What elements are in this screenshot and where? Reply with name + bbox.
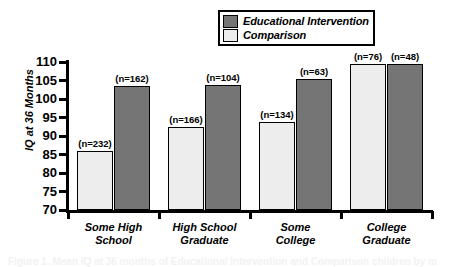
y-axis-tick <box>59 172 67 175</box>
legend-swatch-dark <box>223 15 238 28</box>
bar-educational-intervention-3 <box>296 79 332 210</box>
y-axis-tick-label: 70 <box>1 203 57 216</box>
y-axis-tick-label: 100 <box>1 92 57 105</box>
x-axis-tick <box>340 211 343 219</box>
bar-comparison-1 <box>77 151 113 210</box>
bar-sample-size-label: (n=63) <box>290 67 338 77</box>
plot-area <box>68 62 432 210</box>
y-axis-tick <box>59 153 67 156</box>
y-axis-tick-labels: 110105100959085807570 <box>0 0 57 264</box>
y-axis-tick-label: 90 <box>1 129 57 142</box>
y-axis-tick-label: 95 <box>1 111 57 124</box>
bar-comparison-3 <box>259 122 295 210</box>
x-axis-category-label: Some High School <box>68 221 159 246</box>
x-axis-tick <box>158 211 161 219</box>
legend-label: Educational Intervention <box>243 16 369 27</box>
bar-educational-intervention-1 <box>114 86 150 210</box>
bar-educational-intervention-2 <box>205 85 241 210</box>
x-axis-category-label: College Graduate <box>341 221 432 246</box>
y-axis-tick <box>59 135 67 138</box>
bar-educational-intervention-4 <box>387 64 423 210</box>
bar-comparison-2 <box>168 127 204 210</box>
y-axis-tick-label: 80 <box>1 166 57 179</box>
y-axis-tick <box>59 209 67 212</box>
bar-sample-size-label: (n=48) <box>381 52 429 62</box>
y-axis-tick <box>59 61 67 64</box>
x-axis-category-label: Some College <box>250 221 341 246</box>
y-axis-tick <box>59 79 67 82</box>
bar-sample-size-label: (n=232) <box>71 139 119 149</box>
figure-caption: Figure 1. Mean IQ at 36 months of Educat… <box>8 256 444 267</box>
y-axis-tick-label: 85 <box>1 148 57 161</box>
chart-legend: Educational InterventionComparison <box>218 10 375 46</box>
y-axis-tick <box>59 190 67 193</box>
bar-comparison-4 <box>350 64 386 210</box>
bar-sample-size-label: (n=166) <box>162 115 210 125</box>
x-axis-tick <box>67 211 70 219</box>
y-axis-tick <box>59 116 67 119</box>
legend-label: Comparison <box>243 30 306 41</box>
legend-swatch-light <box>223 29 238 42</box>
y-axis-tick-label: 110 <box>1 55 57 68</box>
bar-sample-size-label: (n=104) <box>199 73 247 83</box>
y-axis-tick-label: 75 <box>1 185 57 198</box>
x-axis-category-label: High School Graduate <box>159 221 250 246</box>
y-axis-tick <box>59 98 67 101</box>
legend-entry: Educational Intervention <box>223 14 369 28</box>
x-axis-tick <box>249 211 252 219</box>
x-axis-tick <box>431 211 434 219</box>
bar-sample-size-label: (n=134) <box>253 110 301 120</box>
bar-sample-size-label: (n=162) <box>108 74 156 84</box>
legend-entry: Comparison <box>223 28 369 42</box>
y-axis-tick-label: 105 <box>1 74 57 87</box>
